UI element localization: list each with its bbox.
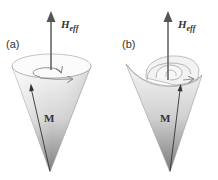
panel-b-heff-label: Heff	[177, 18, 197, 33]
panel-a-label: (a)	[6, 38, 19, 50]
panel-a-m-label: M	[44, 112, 55, 124]
panel-b-m-label: M	[160, 112, 171, 124]
panel-a-heff-label: Heff	[60, 18, 80, 33]
panel-a-heff-arrowhead	[47, 11, 56, 22]
panel-a: (a) Heff M	[6, 11, 91, 172]
magnetization-precession-diagram: (a) Heff M (b)	[0, 0, 218, 180]
panel-b-heff-arrowhead	[164, 11, 173, 22]
panel-b-label: (b)	[122, 38, 135, 50]
panel-b: (b) Heff M	[122, 11, 202, 172]
